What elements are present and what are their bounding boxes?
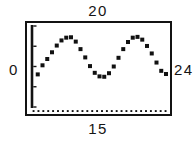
data-point (50, 50, 54, 54)
axis-label-right: 24 (174, 62, 196, 77)
data-point (159, 69, 163, 73)
data-point (69, 35, 73, 39)
data-point (60, 38, 64, 42)
data-point (83, 55, 87, 59)
data-point (64, 36, 68, 40)
data-markers (36, 35, 168, 79)
axis-label-top: 20 (0, 3, 196, 18)
x-axis (33, 110, 167, 112)
data-point (121, 47, 125, 51)
data-point (88, 64, 92, 68)
data-point (107, 71, 111, 75)
y-axis (32, 25, 37, 108)
data-point (74, 40, 78, 44)
plot-canvas (27, 23, 170, 114)
data-point (112, 65, 116, 69)
data-point (164, 72, 168, 76)
data-point (36, 72, 40, 76)
scatter-plot-figure: 20 0 24 15 (0, 0, 196, 141)
axis-label-left: 0 (5, 62, 23, 77)
data-point (102, 75, 106, 79)
data-point (117, 56, 121, 60)
data-point (55, 44, 59, 48)
data-point (136, 35, 140, 39)
data-point (145, 44, 149, 48)
data-point (140, 38, 144, 42)
data-point (41, 63, 45, 67)
data-point (155, 61, 159, 65)
data-point (79, 47, 83, 51)
data-point (93, 71, 97, 75)
plot-frame (25, 21, 172, 116)
data-point (98, 74, 102, 78)
data-point (131, 36, 135, 40)
axis-label-bottom: 15 (0, 121, 196, 136)
data-point (126, 40, 130, 44)
data-point (45, 57, 49, 61)
data-point (150, 51, 154, 55)
